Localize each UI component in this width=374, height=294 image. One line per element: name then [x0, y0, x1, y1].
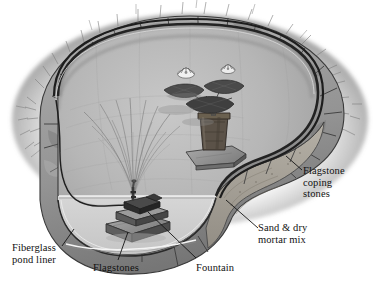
label-flagstones: Flagstones: [93, 262, 139, 274]
label-fiberglass-pond-liner: Fiberglass pond liner: [12, 242, 56, 265]
label-flagstone-coping-stones: Flagstone coping stones: [303, 165, 345, 200]
pond-illustration: [0, 0, 374, 294]
label-sand-and-dry-mortar-mix: Sand & dry mortar mix: [258, 222, 307, 245]
pond-diagram-figure: Flagstone coping stones Sand & dry morta…: [0, 0, 374, 294]
label-fountain: Fountain: [196, 262, 234, 274]
